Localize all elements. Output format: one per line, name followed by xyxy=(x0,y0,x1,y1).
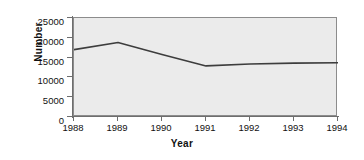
line-chart: Number 0500010000150002000025000 Year 19… xyxy=(0,0,364,160)
x-tick-label: 1989 xyxy=(93,122,141,134)
x-tick-label: 1993 xyxy=(269,122,317,134)
y-tick-label: 15000 xyxy=(26,56,64,67)
series-number-line xyxy=(74,43,338,66)
x-tick-mark xyxy=(337,117,338,121)
x-tick-mark xyxy=(117,117,118,121)
x-tick-label: 1994 xyxy=(313,122,361,134)
y-tick-label: 20000 xyxy=(26,36,64,47)
x-axis-title: Year xyxy=(0,138,364,149)
y-axis-tick-labels: 0500010000150002000025000 xyxy=(26,11,64,123)
y-tick-label: 25000 xyxy=(26,16,64,27)
y-tick-mark xyxy=(67,57,73,58)
x-tick-mark xyxy=(73,117,74,121)
y-tick-label: 5000 xyxy=(26,95,64,106)
x-tick-label: 1990 xyxy=(137,122,185,134)
x-tick-label: 1988 xyxy=(49,122,97,134)
x-tick-mark xyxy=(205,117,206,121)
x-tick-mark xyxy=(161,117,162,121)
x-tick-label: 1992 xyxy=(225,122,273,134)
x-tick-mark xyxy=(293,117,294,121)
y-tick-mark xyxy=(67,76,73,77)
x-tick-label: 1991 xyxy=(181,122,229,134)
data-line-svg xyxy=(74,18,338,117)
y-tick-mark xyxy=(67,37,73,38)
y-tick-mark xyxy=(67,96,73,97)
y-tick-label: 10000 xyxy=(26,75,64,86)
y-tick-mark xyxy=(67,17,73,18)
plot-area xyxy=(73,17,337,116)
x-tick-mark xyxy=(249,117,250,121)
